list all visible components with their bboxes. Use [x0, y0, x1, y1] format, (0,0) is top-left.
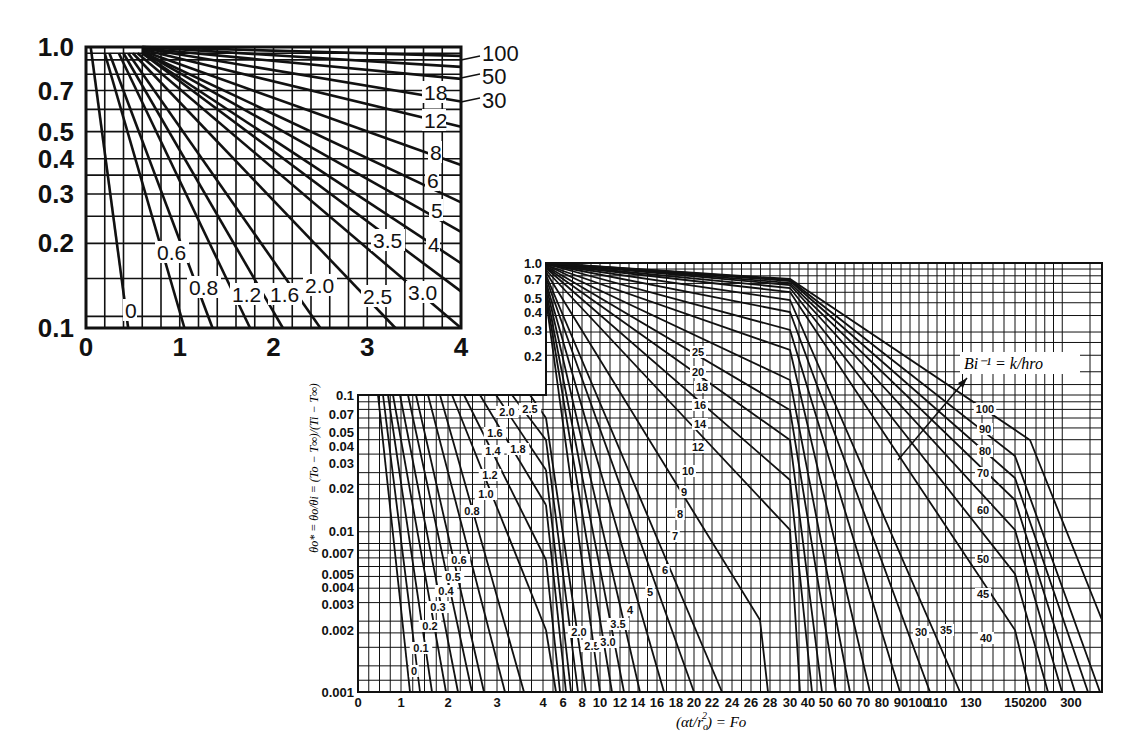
x-tick-label: 28 [763, 695, 777, 710]
x-tick-label: 30 [783, 695, 797, 710]
curve-label: 5 [647, 586, 653, 598]
curve-label: 0.8 [464, 505, 479, 517]
curve-label: 1.2 [482, 469, 497, 481]
curve-label: 80 [979, 445, 991, 457]
curve-label: 0.3 [430, 601, 445, 613]
curve-label: 0.6 [157, 241, 186, 264]
x-tick-label: 40 [801, 695, 815, 710]
curve-label: 2.0 [305, 274, 334, 297]
leader-line [461, 98, 480, 102]
y-tick-label: 0.2 [38, 228, 74, 258]
x-tick-label: 14 [631, 695, 646, 710]
y-tick-label: 0.5 [524, 291, 542, 306]
curve-label: 3.0 [600, 636, 615, 648]
curve-label: 0.6 [451, 554, 466, 566]
x-tick-label: 200 [1025, 695, 1047, 710]
curve-label: 1.0 [478, 488, 493, 500]
y-tick-label: 0.001 [321, 685, 354, 700]
y-tick-label: 0.7 [38, 76, 74, 106]
curve-label: 1.6 [270, 283, 299, 306]
curve-label: 1.8 [510, 443, 525, 455]
curve-label: 4 [428, 233, 440, 256]
y-tick-label: 0.05 [329, 425, 354, 440]
curve-label: 1.6 [487, 427, 502, 439]
curve-label: 18 [696, 381, 708, 393]
y-tick-label: 0.1 [38, 313, 74, 343]
curve-label: 100 [976, 403, 994, 415]
curve-label: 30 [915, 626, 927, 638]
x-tick-label: 80 [875, 695, 889, 710]
curve-label: 20 [692, 366, 704, 378]
curve-label: 7 [672, 530, 678, 542]
curve-label: 0 [411, 665, 417, 677]
x-tick-label: 2 [444, 695, 451, 710]
curve-label: 3.5 [610, 618, 625, 630]
y-tick-label: 0.004 [321, 580, 354, 595]
y-tick-label: 0.3 [524, 323, 542, 338]
x-tick-label: 60 [838, 695, 852, 710]
x-tick-label: 26 [744, 695, 758, 710]
curve-label: 1.4 [485, 445, 501, 457]
leader-line [461, 56, 480, 60]
y-tick-label: 1.0 [524, 256, 542, 271]
curve-label: 100 [482, 41, 519, 66]
x-tick-label: 8 [578, 695, 585, 710]
curve [546, 264, 900, 692]
x-tick-label: 10 [593, 695, 607, 710]
annotation-arrow [898, 378, 967, 460]
x-tick-label: 70 [856, 695, 870, 710]
curve-label: 14 [694, 418, 707, 430]
x-tick-label: 110 [927, 695, 948, 710]
curve-label: 25 [692, 346, 704, 358]
curve-label: 18 [424, 81, 447, 104]
x-tick-label: 90 [894, 695, 908, 710]
y-tick-label: 0.4 [38, 144, 75, 174]
curve-label: 9 [681, 486, 687, 498]
x-tick-label: 24 [725, 695, 740, 710]
curve-label: 2.5 [363, 285, 392, 308]
y-tick-label: 0.07 [329, 407, 354, 422]
bi-annotation: Bi⁻¹ = k/hro [964, 355, 1043, 372]
y-tick-label: 0.7 [524, 272, 542, 287]
curve-label: 0 [125, 299, 137, 322]
y-tick-label: 0.2 [524, 349, 542, 364]
x-tick-label: 150 [1004, 695, 1026, 710]
curve-label: 45 [977, 588, 989, 600]
curve-label: 0.8 [189, 276, 218, 299]
curve-label: 70 [977, 467, 989, 479]
y-tick-label: 0.003 [321, 597, 354, 612]
y-tick-label: 0.3 [38, 179, 74, 209]
x-tick-label: 0 [354, 695, 361, 710]
curve-label: 2.0 [571, 626, 586, 638]
curve-label: 0.1 [413, 642, 428, 654]
y-tick-label: 0.1 [336, 388, 354, 403]
y-tick-label: 0.007 [321, 546, 354, 561]
curve-label: 6 [662, 564, 668, 576]
x-tick-label: 3 [493, 695, 500, 710]
curve-label: 50 [482, 64, 506, 89]
x-tick-label: 12 [613, 695, 627, 710]
inset-right-labels: 1005030 [461, 41, 519, 113]
y-tick-label: 0.03 [329, 456, 354, 471]
heisler-charts: 1.00.70.50.40.30.20.1 01234 1005030 1812… [0, 0, 1146, 740]
curve-label: 6 [427, 169, 439, 192]
curve-label: 12 [692, 441, 704, 453]
main-x-axis: 0123468101214161820222426283040506070809… [354, 695, 1081, 710]
x-tick-label: 0 [79, 332, 93, 362]
leader-line [461, 74, 480, 78]
x-tick-label: 16 [650, 695, 664, 710]
y-tick-label: 0.04 [329, 439, 355, 454]
x-tick-label: 4 [454, 332, 469, 362]
curve-label: 12 [424, 109, 447, 132]
inset-y-axis: 1.00.70.50.40.30.20.1 [38, 32, 75, 343]
x-tick-label: 20 [687, 695, 701, 710]
x-tick-label: 1 [397, 695, 404, 710]
curve-label: 90 [979, 423, 991, 435]
curve-label: 8 [430, 141, 442, 164]
x-tick-label: 1 [173, 332, 187, 362]
y-tick-label: 1.0 [38, 32, 74, 62]
curve-label: 16 [694, 399, 706, 411]
x-tick-label: 2 [266, 332, 280, 362]
curve-bi-8 [142, 51, 461, 165]
curve-label: 0.4 [438, 585, 454, 597]
